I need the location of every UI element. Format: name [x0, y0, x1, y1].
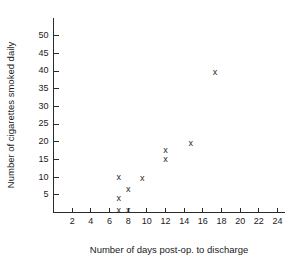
y-tick-label: 50: [38, 30, 48, 40]
x-axis-ticks: 24681012141618202224: [70, 208, 283, 226]
data-point-marker: x: [117, 172, 122, 182]
y-tick-label: 30: [38, 101, 48, 111]
x-tick-label: 24: [273, 216, 283, 226]
x-tick-label: 8: [126, 216, 131, 226]
data-point-marker: x: [117, 193, 122, 203]
y-tick-label: 25: [38, 118, 48, 128]
data-point-marker: x: [126, 205, 131, 215]
y-tick-label: 40: [38, 65, 48, 75]
axes: [54, 18, 286, 213]
x-tick-label: 20: [235, 216, 245, 226]
scatter-chart: 5101520253035404550 24681012141618202224…: [0, 0, 292, 269]
x-tick-label: 14: [179, 216, 189, 226]
y-tick-label: 35: [38, 83, 48, 93]
x-tick-label: 16: [198, 216, 208, 226]
x-axis-title: Number of days post-op. to discharge: [90, 244, 248, 255]
plot-area: 5101520253035404550 24681012141618202224…: [0, 0, 292, 269]
y-tick-label: 20: [38, 136, 48, 146]
data-point-marker: x: [188, 138, 193, 148]
data-point-marker: x: [163, 154, 168, 164]
y-tick-label: 10: [38, 172, 48, 182]
x-tick-label: 22: [254, 216, 264, 226]
data-point-marker: x: [213, 67, 218, 77]
x-tick-label: 4: [88, 216, 93, 226]
y-tick-label: 5: [43, 189, 48, 199]
x-tick-label: 12: [161, 216, 171, 226]
y-tick-label: 15: [38, 154, 48, 164]
x-tick-label: 10: [142, 216, 152, 226]
x-tick-label: 6: [107, 216, 112, 226]
data-point-group: xxxxxxxxxx: [117, 67, 218, 215]
x-tick-label: 2: [70, 216, 75, 226]
y-axis-ticks: 5101520253035404550: [38, 30, 58, 199]
data-point-marker: x: [117, 205, 122, 215]
data-point-marker: x: [126, 184, 131, 194]
x-tick-label: 18: [217, 216, 227, 226]
y-axis-title: Number of cigarettes smoked daily: [5, 42, 16, 189]
y-tick-label: 45: [38, 48, 48, 58]
data-point-marker: x: [140, 173, 145, 183]
